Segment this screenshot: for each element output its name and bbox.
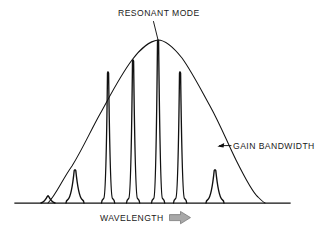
resonant-mode-leader: [154, 22, 159, 41]
resonant-mode-peaks: [41, 40, 224, 203]
leader-arrow-left-icon: [217, 143, 224, 148]
resonant-mode-peak-5: [152, 40, 165, 203]
resonant-mode-peak-7: [206, 170, 224, 203]
resonant-mode-peak-6: [174, 72, 187, 203]
right-arrow-icon: [170, 211, 191, 223]
gain-bandwidth-leader: [217, 143, 231, 148]
diagram-canvas: RESONANT MODE GAIN BANDWIDTH WAVELENGTH: [0, 0, 323, 233]
wavelength-label: WAVELENGTH: [100, 213, 164, 223]
resonant-mode-peak-2: [66, 170, 84, 203]
resonant-mode-peak-4: [127, 60, 140, 203]
resonant-mode-label: RESONANT MODE: [118, 8, 200, 18]
gain-bandwidth-label: GAIN BANDWIDTH: [233, 141, 315, 151]
